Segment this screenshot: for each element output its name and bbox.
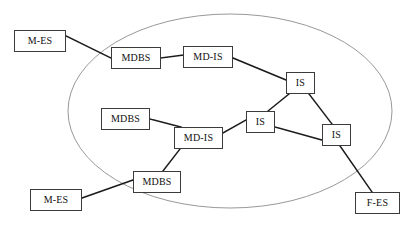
node-label: MD-IS [184, 133, 213, 143]
node-label: M-ES [28, 36, 53, 46]
network-link [223, 120, 246, 133]
network-link [340, 146, 372, 192]
node-label: IS [332, 130, 341, 140]
network-diagram: M-ESMDBSMD-ISISMDBSMD-ISISISMDBSM-ESF-ES [0, 0, 413, 225]
node-mdis-top: MD-IS [183, 46, 233, 68]
node-mes-top-left: M-ES [14, 30, 66, 52]
node-mdbs-middle: MDBS [101, 108, 150, 130]
node-label: MDBS [121, 53, 150, 63]
node-is-top: IS [286, 72, 315, 94]
node-is-middle: IS [246, 111, 275, 133]
node-label: MDBS [142, 177, 171, 187]
network-link [66, 36, 111, 58]
node-label: IS [256, 117, 265, 127]
node-mdbs-top: MDBS [111, 47, 161, 69]
node-fes-bottom-right: F-ES [355, 192, 400, 214]
node-mes-bottom-left: M-ES [30, 189, 82, 211]
network-link [161, 55, 183, 58]
network-link [82, 180, 133, 198]
network-link [233, 58, 286, 80]
node-mdis-middle: MD-IS [174, 127, 223, 149]
network-link [268, 94, 289, 111]
network-link [275, 127, 322, 140]
node-label: MD-IS [193, 52, 222, 62]
node-label: MDBS [111, 114, 140, 124]
node-label: IS [296, 78, 305, 88]
network-link [163, 149, 180, 171]
node-mdbs-bottom: MDBS [133, 171, 181, 193]
node-label: F-ES [367, 198, 388, 208]
node-is-right: IS [322, 124, 351, 146]
network-link [150, 119, 181, 127]
network-link [309, 94, 332, 124]
node-label: M-ES [44, 195, 69, 205]
